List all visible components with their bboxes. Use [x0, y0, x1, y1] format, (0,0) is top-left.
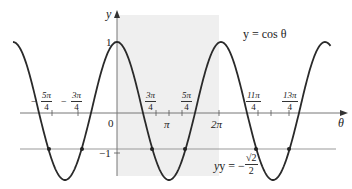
y-tick-label-neg1: −1	[99, 148, 111, 159]
y-axis-label: y	[106, 8, 111, 20]
tick-label-11pi-over-4: 11π4	[246, 91, 261, 112]
origin-label: 0	[108, 118, 114, 129]
tick-label-2pi: 2π	[211, 119, 222, 130]
theta-axis-label: θ	[338, 117, 344, 129]
minus-sign: −	[31, 96, 37, 107]
tick-label-5pi-over-4: 5π4	[181, 91, 192, 112]
line-label-fraction: √22	[245, 153, 258, 176]
shaded-period-region	[117, 15, 219, 176]
tick-label-3pi-over-4: 3π4	[145, 91, 156, 112]
tick-label-neg-3pi-over-4: 3π4	[71, 91, 82, 112]
y-tick-label-1: 1	[106, 37, 112, 48]
y-axis-arrow-icon	[114, 10, 120, 18]
tick-label-pi: π	[164, 119, 170, 130]
minus-sign: −	[61, 96, 67, 107]
tick-label-neg-5pi-over-4: 5π4	[41, 91, 52, 112]
curve-label: y = cos θ	[243, 28, 287, 40]
line-label: yy = −	[214, 160, 245, 172]
tick-label-13pi-over-4: 13π4	[282, 91, 298, 112]
cosine-plot	[0, 0, 352, 189]
